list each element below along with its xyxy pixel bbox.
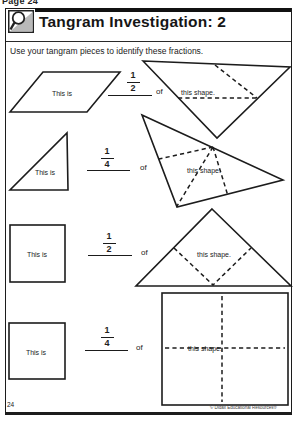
row1-fraction-numerator: 1 (125, 71, 141, 80)
row4-fraction: 1 4 (99, 326, 115, 348)
row2-of-label: of (140, 163, 147, 172)
header-divider (6, 41, 291, 42)
row1-this-shape-label: this shape. (181, 89, 215, 96)
row3-answer-blank (88, 255, 132, 256)
copyright-text: © Didax Educational Resources® (210, 405, 277, 410)
row1-of-label: of (156, 87, 163, 96)
row2-fraction: 1 4 (99, 147, 115, 169)
row3-this-shape-label: this shape. (197, 251, 231, 258)
row2-fraction-denominator: 4 (99, 160, 115, 169)
row3-this-is-label: This is (27, 251, 47, 258)
row2-this-shape-label: this shape. (187, 167, 221, 174)
row3-fraction-denominator: 2 (101, 245, 117, 254)
row2-answer-blank (87, 170, 130, 171)
row1-this-is-label: This is (52, 90, 72, 97)
row3-of-label: of (141, 248, 148, 257)
row4-this-is-label: This is (26, 349, 46, 356)
row3-fraction: 1 2 (101, 232, 117, 254)
row4-this-shape-label: this shape. (188, 345, 222, 352)
worksheet-page: Page 24 Tangram Investigation: 2 Use you… (0, 0, 298, 422)
header-top-bar (35, 8, 291, 12)
page-top-label: Page 24 (2, 0, 38, 6)
row1-fraction: 1 2 (125, 71, 141, 93)
row2-fraction-numerator: 1 (99, 147, 115, 156)
page-title: Tangram Investigation: 2 (39, 13, 226, 31)
row3-fraction-numerator: 1 (101, 232, 117, 241)
row1-answer-blank (108, 95, 152, 96)
page-frame (5, 8, 292, 415)
row4-fraction-denominator: 4 (99, 339, 115, 348)
page-number: 24 (7, 401, 14, 408)
row1-fraction-denominator: 2 (125, 84, 141, 93)
row4-of-label: of (136, 343, 143, 352)
row4-fraction-numerator: 1 (99, 326, 115, 335)
instruction-text: Use your tangram pieces to identify thes… (10, 46, 203, 56)
row4-answer-blank (85, 350, 128, 351)
magnifier-icon (8, 10, 34, 33)
row2-this-is-label: This is (35, 169, 55, 176)
